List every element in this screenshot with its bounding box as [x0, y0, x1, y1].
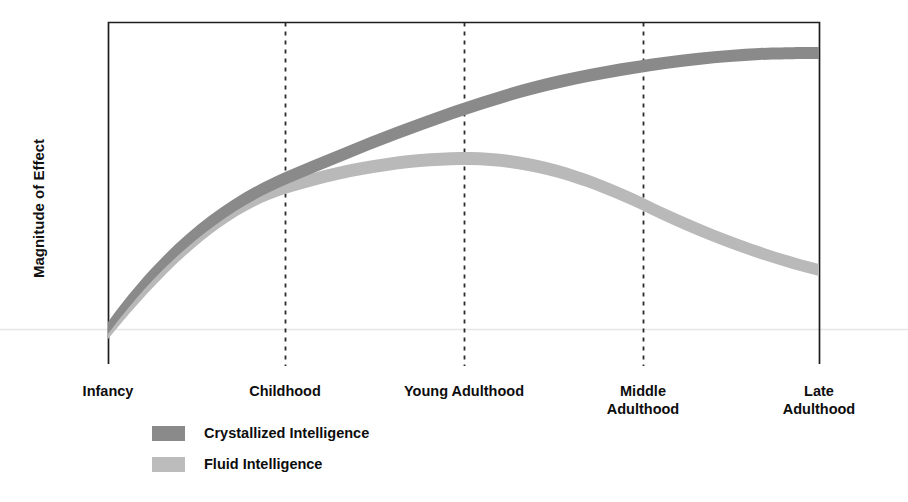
y-axis-title: Magnitude of Effect: [30, 129, 47, 289]
legend-label-crystallized: Crystallized Intelligence: [204, 425, 369, 441]
x-tick-label-middle-adulthood: Middle Adulthood: [573, 383, 713, 418]
legend-swatch-crystallized-icon: [152, 426, 185, 441]
x-tick-label-infancy: Infancy: [38, 383, 178, 401]
x-tick-label-young-adulthood: Young Adulthood: [374, 383, 554, 401]
chart-plot-area: [0, 0, 908, 502]
x-tick-label-late-adulthood: Late Adulthood: [749, 383, 889, 418]
series-band-crystallized-intelligence: [108, 47, 819, 334]
legend-item-fluid-intelligence: Fluid Intelligence: [152, 456, 322, 472]
legend-item-crystallized-intelligence: Crystallized Intelligence: [152, 425, 369, 441]
x-tick-label-childhood: Childhood: [215, 383, 355, 401]
legend-label-fluid: Fluid Intelligence: [204, 456, 322, 472]
series-band-fluid-intelligence: [108, 152, 819, 339]
chart-figure: Magnitude of Effect Infancy Childhood Yo…: [0, 0, 908, 502]
legend-swatch-fluid-icon: [152, 457, 185, 472]
